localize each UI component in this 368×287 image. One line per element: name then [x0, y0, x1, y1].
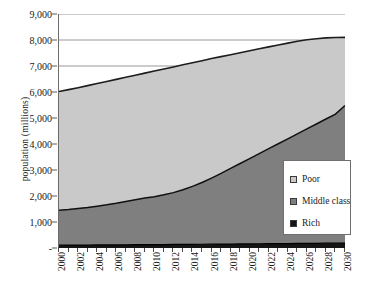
- legend-swatch-middle-class: [290, 198, 297, 205]
- y-tick-mark: [52, 66, 57, 67]
- y-tick-mark: [52, 40, 57, 41]
- x-tick-label: 2016: [210, 252, 220, 271]
- x-tick-label: 2010: [152, 252, 162, 271]
- y-tick-label: 1,000: [6, 217, 52, 228]
- y-tick-mark: [52, 196, 57, 197]
- x-tick-label: 2006: [114, 252, 124, 271]
- x-tick-mark: [68, 248, 69, 252]
- legend-swatch-rich: [290, 220, 297, 227]
- x-tick-mark: [296, 248, 297, 252]
- legend-item-poor: Poor: [290, 168, 350, 190]
- y-tick-label: 5,000: [6, 113, 52, 124]
- x-tick-label: 2012: [171, 252, 181, 271]
- x-tick-label: 2020: [248, 252, 258, 271]
- x-tick-mark: [334, 248, 335, 252]
- x-tick-label: 2018: [229, 252, 239, 271]
- y-tick-label: 2,000: [6, 191, 52, 202]
- x-tick-label: 2002: [76, 252, 86, 271]
- y-tick-label: 3,000: [6, 165, 52, 176]
- legend-item-rich: Rich: [290, 212, 350, 234]
- legend-swatch-poor: [290, 176, 297, 183]
- y-tick-mark: [52, 170, 57, 171]
- x-tick-label: 2004: [95, 252, 105, 271]
- y-tick-label: 4,000: [6, 139, 52, 150]
- legend-label-poor: Poor: [302, 174, 320, 184]
- x-tick-mark: [315, 248, 316, 252]
- y-tick-mark: [52, 118, 57, 119]
- x-tick-mark: [239, 248, 240, 252]
- x-tick-label: 2026: [305, 252, 315, 271]
- y-tick-label: 9,000: [6, 9, 52, 20]
- x-tick-mark: [182, 248, 183, 252]
- x-tick-label: 2008: [133, 252, 143, 271]
- y-tick-mark: [52, 248, 57, 249]
- x-tick-mark: [258, 248, 259, 252]
- legend-label-middle-class: Middle class: [302, 196, 350, 206]
- y-tick-mark: [52, 222, 57, 223]
- x-tick-label: 2000: [57, 252, 67, 271]
- x-tick-label: 2014: [190, 252, 200, 271]
- x-tick-label: 2030: [343, 252, 353, 271]
- y-tick-mark: [52, 144, 57, 145]
- x-tick-mark: [106, 248, 107, 252]
- x-tick-mark: [125, 248, 126, 252]
- legend-label-rich: Rich: [302, 218, 320, 228]
- x-tick-label: 2024: [286, 252, 296, 271]
- legend-item-middle-class: Middle class: [290, 190, 350, 212]
- x-tick-label: 2028: [324, 252, 334, 271]
- y-tick-label: -: [6, 243, 52, 254]
- y-tick-mark: [52, 92, 57, 93]
- x-tick-mark: [163, 248, 164, 252]
- y-tick-label: 8,000: [6, 35, 52, 46]
- x-tick-label: 2022: [267, 252, 277, 271]
- x-tick-mark: [201, 248, 202, 252]
- y-axis: population (millions) -1,0002,0003,0004,…: [0, 0, 52, 287]
- y-tick-label: 7,000: [6, 61, 52, 72]
- stacked-area-chart: population (millions) -1,0002,0003,0004,…: [0, 0, 368, 287]
- y-tick-label: 6,000: [6, 87, 52, 98]
- legend: Poor Middle class Rich: [283, 160, 351, 235]
- x-tick-mark: [87, 248, 88, 252]
- x-tick-mark: [277, 248, 278, 252]
- x-tick-mark: [144, 248, 145, 252]
- x-axis: 2000200220042006200820102012201420162018…: [58, 248, 344, 287]
- y-tick-mark: [52, 14, 57, 15]
- x-tick-mark: [220, 248, 221, 252]
